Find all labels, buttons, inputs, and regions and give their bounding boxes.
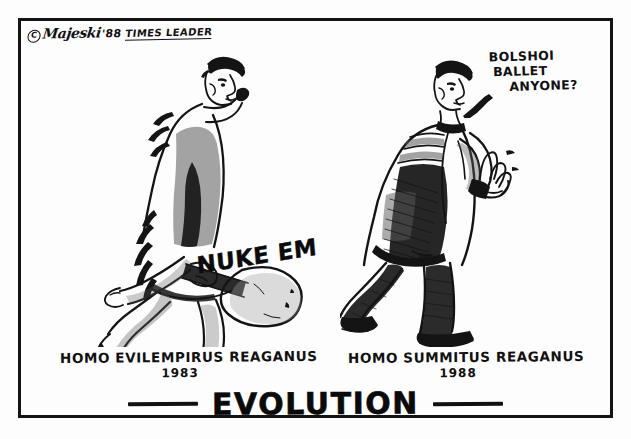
title-dash-right: [433, 401, 503, 406]
caveman-raised-arm: [204, 88, 249, 122]
speech-line-3: ANYONE?: [489, 77, 599, 95]
artist-name: Majeski: [42, 24, 102, 41]
businessman-raised-arm: [456, 133, 519, 199]
caveman-reagan-figure: [58, 52, 303, 347]
businessman-reagan-figure: [340, 55, 530, 347]
caption-left-species: HOMO EVILEMPIRUS REAGANUS: [60, 348, 300, 366]
artist-signature: CMajeski'88TIMES LEADER: [27, 22, 214, 43]
title-dash-left: [128, 401, 198, 406]
caption-left-year: 1983: [60, 365, 300, 381]
signature-year: '88: [101, 27, 122, 40]
cartoon-title: EVOLUTION: [212, 385, 419, 421]
caption-right-year: 1988: [348, 365, 568, 381]
speech-balloon-text: BOLSHOI BALLET ANYONE?: [488, 47, 599, 95]
cartoon-title-row: EVOLUTION: [18, 386, 613, 421]
caption-left-panel: HOMO EVILEMPIRUS REAGANUS 1983: [60, 348, 300, 381]
copyright-icon: C: [27, 30, 42, 43]
editorial-cartoon: CMajeski'88TIMES LEADER: [0, 0, 631, 439]
caption-right-panel: HOMO SUMMITUS REAGANUS 1988: [348, 348, 568, 381]
speech-balloon-tail: [461, 92, 495, 118]
publication-name: TIMES LEADER: [125, 26, 213, 41]
caption-right-species: HOMO SUMMITUS REAGANUS: [348, 348, 568, 366]
suit-trousers-legs: [340, 263, 474, 347]
